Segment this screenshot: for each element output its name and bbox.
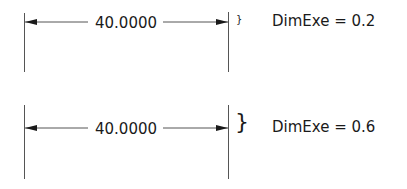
dimension-text: 40.0000 — [95, 14, 157, 32]
dimension-example-2: 40.0000 } — [25, 105, 250, 179]
dimension-text: 40.0000 — [95, 120, 157, 138]
dimexe-label-2: DimExe = 0.6 — [272, 118, 375, 136]
extension-brace-small: } — [236, 14, 242, 25]
dimension-example-1: 40.0000 } — [25, 12, 243, 72]
dimexe-label-1: DimExe = 0.2 — [272, 12, 375, 30]
extension-brace-large: } — [235, 109, 249, 134]
